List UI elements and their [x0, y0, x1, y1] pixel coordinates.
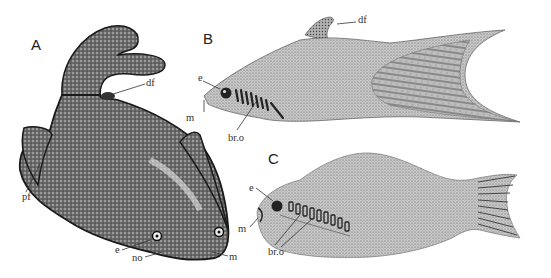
label-b-df: df — [358, 15, 367, 26]
label-c-bro: br.o — [268, 247, 284, 258]
label-a-no: no — [132, 253, 143, 264]
panel-c-fish — [250, 153, 520, 258]
panel-label-a: A — [31, 36, 41, 53]
panel-a-fish — [20, 26, 229, 260]
label-c-m: m — [238, 224, 246, 235]
label-a-df: df — [146, 78, 155, 89]
label-b-m: m — [186, 113, 194, 124]
fish-illustration-figure: A B C df pf e no m df e m br.o e m br.o — [0, 0, 551, 278]
label-a-m: m — [229, 252, 237, 263]
label-a-e: e — [115, 245, 120, 256]
label-b-bro: br.o — [228, 133, 244, 144]
panel-label-c: C — [268, 150, 279, 167]
label-c-e: e — [249, 183, 254, 194]
label-a-pf: pf — [22, 192, 31, 203]
panel-label-b: B — [203, 30, 213, 47]
panel-b-fish — [203, 17, 520, 130]
figure-drawing — [0, 0, 551, 278]
label-b-e: e — [198, 73, 203, 84]
